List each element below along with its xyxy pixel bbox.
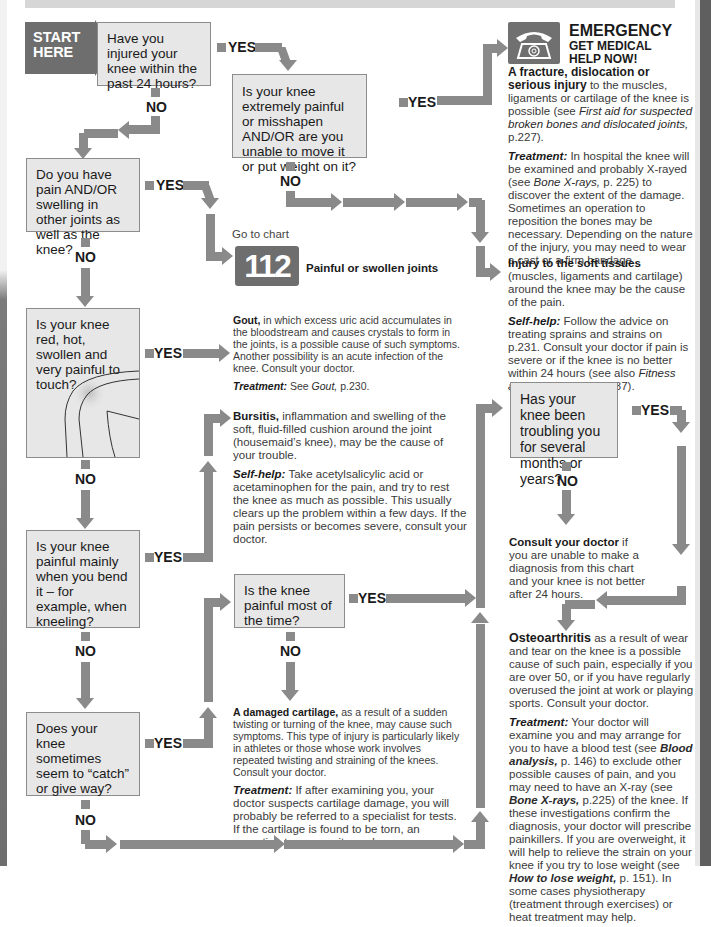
arrow-up-icon (471, 612, 489, 623)
info-text: See (287, 380, 312, 392)
emergency-title: EMERGENCY (569, 22, 672, 40)
page-reference[interactable]: Bone X-rays, (509, 794, 579, 806)
arrow-right-icon (220, 593, 231, 611)
arrow-right-icon (490, 263, 501, 281)
flow-arrow-bend (276, 47, 290, 61)
flow-arrow (677, 446, 686, 546)
arrow-down-icon (281, 690, 299, 701)
question-extremely-painful[interactable]: Is your knee extremely painful or missha… (232, 74, 367, 158)
diagnosis-title: Injury to the soft tissues (508, 257, 641, 269)
flow-arrow (204, 420, 213, 456)
info-text: p. 225) to discover the extent of the da… (508, 176, 693, 266)
page-reference[interactable]: How to lose weight, (509, 872, 616, 884)
flow-arrow (84, 129, 118, 138)
question-text: Is your knee extremely painful or missha… (242, 84, 356, 174)
question-other-joints[interactable]: Do you have pain AND/OR swelling in othe… (26, 158, 140, 232)
arrow-down-icon (279, 60, 297, 71)
knee-illustration (27, 369, 139, 457)
start-here-marker: START HERE (25, 22, 95, 74)
no-marker (151, 88, 160, 97)
no-marker (286, 162, 295, 171)
page-reference[interactable]: Bone X-rays, (534, 176, 600, 188)
flow-arrow (290, 198, 332, 207)
arrow-down-icon (76, 296, 94, 307)
no-marker (81, 632, 90, 641)
goto-chart-label: Go to chart (232, 228, 289, 240)
no-label: NO (280, 643, 301, 659)
flow-arrow (476, 200, 485, 234)
info-text: (muscles, ligaments and cartilage) aroun… (508, 270, 685, 308)
cartilage-info: A damaged cartilage, as a result of a su… (233, 706, 465, 855)
right-page-edge (700, 0, 711, 866)
question-text: Is your knee painful mainly when you ben… (36, 539, 128, 629)
arrow-down-icon (471, 232, 489, 243)
arrow-up-icon (471, 811, 489, 822)
no-marker (81, 800, 90, 809)
arrow-right-icon (220, 409, 231, 427)
self-help-label: Self-help: (508, 315, 560, 327)
question-catch-give-way[interactable]: Does your knee sometimes seem to “catch”… (26, 712, 140, 796)
flow-arrow (476, 822, 485, 849)
question-months-or-years[interactable]: Has your knee been troubling you for sev… (510, 382, 618, 458)
yes-label: YES (154, 345, 182, 361)
arrow-right-icon (497, 39, 508, 57)
arrow-left-icon (118, 121, 129, 139)
question-text: Have you injured your knee within the pa… (107, 31, 197, 91)
flow-arrow (437, 96, 487, 105)
flow-arrow (562, 490, 571, 516)
emergency-subtitle: GET MEDICAL HELP NOW! (569, 40, 652, 66)
yes-label: YES (228, 39, 256, 55)
flow-arrow (483, 44, 498, 53)
arrow-right-icon (106, 835, 117, 853)
chart-number-badge[interactable]: 112 (235, 246, 299, 286)
yes-marker (145, 181, 154, 190)
yes-label: YES (641, 402, 669, 418)
yes-label: YES (154, 549, 182, 565)
flow-arrow (284, 840, 454, 849)
no-label: NO (557, 473, 578, 489)
flow-arrow (85, 840, 107, 849)
arrow-down-icon (76, 698, 94, 709)
flow-arrow (204, 718, 213, 748)
flow-arrow (476, 410, 485, 608)
gout-info: Gout, in which excess uric acid accumula… (233, 314, 463, 398)
yes-marker (145, 553, 154, 562)
question-painful-most-time[interactable]: Is the knee painful most of the time? (234, 574, 345, 628)
question-red-hot-swollen[interactable]: Is your knee red, hot, swollen and very … (26, 308, 140, 458)
telephone-icon (508, 22, 560, 64)
yes-marker (399, 98, 408, 107)
arrow-up-icon (199, 707, 217, 718)
left-page-edge (0, 0, 7, 866)
top-decorative-bar (25, 0, 675, 8)
arrow-right-icon (465, 589, 476, 607)
yes-label: YES (154, 735, 182, 751)
yes-marker (349, 594, 358, 603)
arrow-right-icon (453, 835, 464, 853)
chart-name-link[interactable]: Painful or swollen joints (306, 262, 438, 274)
yes-marker (217, 43, 226, 52)
arrow-right-icon (219, 344, 230, 362)
question-injured-24h[interactable]: Have you injured your knee within the pa… (97, 22, 211, 86)
yes-label: YES (358, 590, 386, 606)
page-reference[interactable]: Gout, (312, 380, 338, 392)
info-text: p.227). (508, 131, 544, 143)
question-text: Does your knee sometimes seem to “catch”… (36, 721, 129, 796)
arrow-right-icon (222, 247, 233, 265)
arrow-right-icon (331, 193, 342, 211)
flow-arrow (204, 472, 213, 562)
treatment-label: Treatment: (508, 150, 567, 162)
arrow-down-icon (557, 620, 575, 631)
no-label: NO (280, 173, 301, 189)
bursitis-info: Bursitis, inflammation and swelling of t… (233, 410, 468, 552)
flow-arrow (81, 490, 90, 520)
consult-doctor-info: Consult your doctor if you are unable to… (509, 536, 649, 607)
yes-marker (145, 739, 154, 748)
diagnosis-title: Bursitis, (233, 410, 279, 422)
diagnosis-title: Consult your doctor (509, 536, 619, 548)
flow-arrow-bend (200, 185, 214, 199)
treatment-label: Treatment: (509, 716, 568, 728)
no-label: NO (75, 249, 96, 265)
diagnosis-title: Gout, (233, 314, 260, 326)
arrow-down-icon (557, 514, 575, 525)
question-bend-kneeling[interactable]: Is your knee painful mainly when you ben… (26, 530, 140, 628)
